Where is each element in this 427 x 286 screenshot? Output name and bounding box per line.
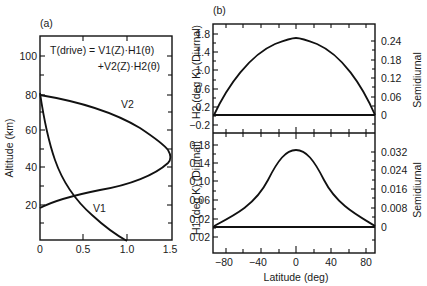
formula-line-1: T(drive) = V1(Z)·H1(θ)	[50, 44, 154, 56]
svg-text:80: 80	[360, 256, 372, 268]
svg-text:40: 40	[325, 256, 337, 268]
svg-text:40: 40	[25, 161, 37, 173]
svg-text:20: 20	[25, 199, 37, 211]
svg-text:0: 0	[381, 109, 387, 121]
svg-text:1.0: 1.0	[120, 243, 135, 255]
panel-a-y-tick-labels: 100 80 60 40 20	[19, 50, 37, 211]
formula-line-2: +V2(Z)·H2(θ)	[98, 60, 160, 72]
h1-y-ticks	[213, 145, 375, 240]
semidiurnal-bottom-label: Semidiurnal	[411, 162, 423, 217]
svg-text:0.24: 0.24	[381, 35, 402, 47]
svg-text:0: 0	[37, 243, 43, 255]
svg-text:0.18: 0.18	[381, 54, 402, 66]
svg-text:0: 0	[381, 221, 387, 233]
h2-y-ticks	[213, 34, 375, 125]
panel-a-y-ticks	[40, 56, 172, 223]
svg-text:0.12: 0.12	[381, 72, 402, 84]
svg-text:0.016: 0.016	[381, 183, 407, 195]
svg-text:60: 60	[25, 124, 37, 136]
h1-curve	[214, 150, 375, 226]
panel-b: (b)	[189, 4, 423, 283]
svg-text:0.06: 0.06	[381, 91, 402, 103]
svg-text:−80: −80	[215, 256, 233, 268]
h1-axis-label: H1 (deg K) (Diurnal)	[190, 141, 202, 235]
panel-a: (a) 100 80 60	[3, 17, 177, 255]
svg-text:0.032: 0.032	[381, 146, 407, 158]
panel-b-label: (b)	[213, 4, 226, 16]
panel-b-frame	[213, 24, 375, 253]
svg-text:0.024: 0.024	[381, 164, 407, 176]
v2-curve	[40, 95, 170, 208]
panel-a-label: (a)	[40, 17, 53, 29]
v2-label: V2	[121, 98, 134, 110]
semidiurnal-top-label: Semidiurnal	[411, 52, 423, 107]
altitude-axis-label: Altitude (km)	[3, 119, 15, 178]
semidiurnal-bottom-tick-labels: 0.032 0.024 0.016 0.008 0	[381, 146, 407, 233]
svg-text:0: 0	[293, 256, 299, 268]
panel-a-x-tick-labels: 0 0.5 1.0 1.5	[37, 243, 177, 255]
panel-b-x-ticks	[226, 24, 366, 253]
semidiurnal-top-tick-labels: 0.24 0.18 0.12 0.06 0	[381, 35, 402, 121]
svg-text:1.5: 1.5	[163, 243, 178, 255]
panel-b-x-tick-labels: −80 −40 0 40 80	[215, 256, 372, 268]
svg-text:−0.2: −0.2	[189, 119, 210, 131]
svg-text:−40: −40	[249, 256, 267, 268]
h2-curve	[214, 38, 375, 115]
svg-text:0.5: 0.5	[76, 243, 91, 255]
svg-text:100: 100	[19, 50, 37, 62]
h2-axis-label: H2 (deg K) (Diurnal)	[190, 25, 202, 119]
v1-label: V1	[93, 202, 106, 214]
svg-text:0.008: 0.008	[381, 202, 407, 214]
figure: (a) 100 80 60	[0, 0, 427, 286]
latitude-axis-label: Latitude (deg)	[264, 271, 329, 283]
svg-text:80: 80	[25, 89, 37, 101]
